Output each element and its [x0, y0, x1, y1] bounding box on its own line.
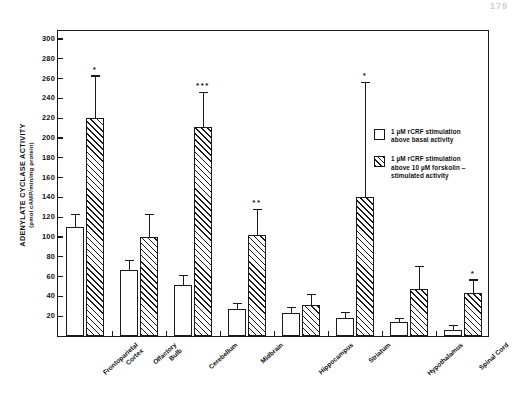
y-axis-tick-label: 60: [46, 272, 55, 281]
error-bar-cap: [287, 307, 296, 308]
y-axis-tick-label: 80: [46, 252, 55, 261]
bar-group: *: [58, 29, 112, 336]
error-bar: [129, 261, 130, 270]
y-axis-tick-label: 240: [42, 93, 55, 102]
error-bar-cap: [449, 325, 458, 326]
page-number: 179: [490, 1, 508, 11]
x-axis-label: Midbrain: [259, 341, 285, 365]
error-bar: [95, 77, 96, 119]
bar: [248, 235, 266, 336]
error-bar: [345, 313, 346, 318]
y-axis-tick-label: 220: [42, 113, 55, 122]
error-bar-cap: [395, 318, 404, 319]
y-axis-title-main: ADENYLATE CYCLASE ACTIVITY: [18, 70, 27, 300]
y-axis-tick-label: 120: [42, 212, 55, 221]
y-axis-tick-label: 180: [42, 153, 55, 162]
legend-entry: 1 µM rCRF stimulationabove 10 µM forskol…: [374, 155, 506, 180]
y-axis-tick-label: 140: [42, 192, 55, 201]
x-axis-tick-mark: [220, 331, 221, 336]
error-bar-cap: [125, 260, 134, 261]
error-bar-cap: [341, 312, 350, 313]
x-axis-tick-mark: [382, 331, 383, 336]
significance-marker: **: [252, 198, 261, 207]
bar-group: [274, 29, 328, 336]
x-axis-tick-mark: [328, 331, 329, 336]
error-bar-cap: [233, 303, 242, 304]
error-bar: [473, 281, 474, 294]
y-axis-tick-label: 300: [42, 34, 55, 43]
error-bar-cap: [469, 279, 478, 280]
x-axis-label: Hippocampus: [317, 341, 354, 376]
legend-swatch-hatched-square: [374, 156, 385, 167]
error-bar: [311, 295, 312, 305]
bar: [140, 237, 158, 336]
bar: [228, 309, 246, 336]
bar: [282, 313, 300, 336]
error-bar: [203, 93, 204, 127]
error-bar: [149, 215, 150, 237]
error-bar: [75, 215, 76, 227]
x-axis-tick-mark: [436, 331, 437, 336]
error-bar-cap: [71, 214, 80, 215]
bar-group: **: [220, 29, 274, 336]
bar: [410, 289, 428, 336]
error-bar-cap: [253, 209, 262, 210]
bar: [66, 227, 84, 336]
y-axis-tick-label: 200: [42, 133, 55, 142]
significance-marker: *: [471, 269, 476, 278]
error-bar: [453, 326, 454, 330]
significance-marker: *: [363, 71, 368, 80]
error-bar: [419, 267, 420, 290]
legend-entry: 1 µM rCRF stimulationabove basal activit…: [374, 128, 506, 144]
x-axis-label: FrontoparietalCortex: [101, 341, 144, 382]
significance-marker: ***: [196, 81, 210, 90]
significance-marker: *: [93, 65, 98, 74]
error-bar-cap: [361, 82, 370, 83]
y-axis-tick-label: 40: [46, 291, 55, 300]
bar-group: [112, 29, 166, 336]
x-axis-tick-mark: [274, 331, 275, 336]
x-axis-label: OlfactoryBulb: [151, 341, 183, 372]
bar: [302, 305, 320, 336]
chart-legend: 1 µM rCRF stimulationabove basal activit…: [374, 128, 506, 191]
bar: [464, 293, 482, 336]
y-axis-title: ADENYLATE CYCLASE ACTIVITY (pmol cAMP/mi…: [18, 70, 40, 300]
x-axis-tick-mark: [166, 331, 167, 336]
legend-label: 1 µM rCRF stimulationabove basal activit…: [391, 128, 461, 144]
y-axis-tick-label: 20: [46, 311, 55, 320]
x-axis-tick-mark: [112, 331, 113, 336]
bar-group: ***: [166, 29, 220, 336]
y-axis-title-units: (pmol cAMP/min/mg protein): [27, 70, 35, 300]
bar: [174, 285, 192, 336]
y-axis-tick-label: 280: [42, 54, 55, 63]
x-axis-label: Cerebellum: [207, 341, 239, 371]
error-bar: [291, 308, 292, 313]
bar: [120, 270, 138, 336]
y-axis-tick-label: 260: [42, 74, 55, 83]
legend-swatch-open-square: [374, 129, 385, 140]
bar: [444, 330, 462, 336]
x-axis-label: Spinal Cord: [478, 341, 511, 371]
y-axis-tick-label: 160: [42, 173, 55, 182]
figure-panel: 179 ADENYLATE CYCLASE ACTIVITY (pmol cAM…: [0, 0, 514, 394]
error-bar-cap: [307, 294, 316, 295]
legend-label: 1 µM rCRF stimulationabove 10 µM forskol…: [391, 155, 466, 180]
bar: [86, 118, 104, 336]
error-bar-cap: [179, 275, 188, 276]
error-bar: [365, 83, 366, 197]
error-bar: [257, 210, 258, 235]
error-bar-cap: [199, 92, 208, 93]
error-bar-cap: [145, 214, 154, 215]
error-bar-cap: [91, 75, 100, 76]
error-bar: [183, 276, 184, 285]
x-axis-label: Hypothalamus: [426, 341, 465, 377]
error-bar: [399, 319, 400, 322]
bar: [356, 197, 374, 336]
bar: [390, 322, 408, 336]
bar: [194, 127, 212, 336]
bar: [336, 318, 354, 336]
error-bar-cap: [415, 266, 424, 267]
y-axis-tick-label: 100: [42, 232, 55, 241]
error-bar: [237, 304, 238, 309]
x-axis-label: Striatum: [367, 341, 392, 365]
